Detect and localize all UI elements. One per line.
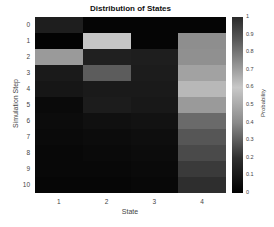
y-tick-label: 2 <box>20 53 30 60</box>
heatmap-cell <box>35 81 83 97</box>
x-axis-label: State <box>110 208 150 215</box>
heatmap-cell <box>35 177 83 193</box>
heatmap-cell <box>35 129 83 145</box>
y-tick-label: 5 <box>20 101 30 108</box>
y-tick-label: 7 <box>20 133 30 140</box>
heatmap-cell <box>83 129 131 145</box>
heatmap-cell <box>131 33 179 49</box>
y-tick-label: 3 <box>20 69 30 76</box>
heatmap-cell <box>178 65 226 81</box>
heatmap-cell <box>178 113 226 129</box>
heatmap-cell <box>35 97 83 113</box>
heatmap-cell <box>35 65 83 81</box>
y-tick-label: 0 <box>20 21 30 28</box>
y-tick-label: 6 <box>20 117 30 124</box>
heatmap-cell <box>83 33 131 49</box>
colorbar-tick-label: 0.9 <box>246 31 254 37</box>
heatmap-cell <box>131 113 179 129</box>
colorbar-tick-label: 0 <box>246 189 249 195</box>
heatmap-cell <box>83 49 131 65</box>
heatmap-cell <box>83 145 131 161</box>
heatmap-cell <box>178 145 226 161</box>
y-tick-label: 9 <box>20 165 30 172</box>
heatmap-cell <box>83 161 131 177</box>
colorbar-tick-label: 0.2 <box>246 154 254 160</box>
heatmap-cell <box>83 65 131 81</box>
heatmap-cell <box>178 33 226 49</box>
heatmap-cell <box>131 81 179 97</box>
heatmap-cell <box>178 97 226 113</box>
colorbar-tick-label: 1 <box>246 13 249 19</box>
heatmap-cell <box>178 129 226 145</box>
y-tick-label: 1 <box>20 37 30 44</box>
heatmap-cell <box>131 49 179 65</box>
heatmap-cell <box>178 81 226 97</box>
heatmap-cell <box>178 161 226 177</box>
x-tick-label: 1 <box>49 198 69 205</box>
heatmap-cell <box>35 33 83 49</box>
heatmap-cell <box>131 97 179 113</box>
colorbar-tick-label: 0.6 <box>246 83 254 89</box>
colorbar-tick-label: 0.7 <box>246 66 254 72</box>
y-tick-label: 10 <box>20 181 30 188</box>
colorbar-tick-label: 0.4 <box>246 119 254 125</box>
heatmap-cell <box>131 65 179 81</box>
heatmap-cell <box>83 97 131 113</box>
heatmap-cell <box>35 49 83 65</box>
heatmap-cell <box>131 177 179 193</box>
y-tick-label: 8 <box>20 149 30 156</box>
x-tick-label: 4 <box>192 198 212 205</box>
heatmap-cell <box>83 177 131 193</box>
heatmap-cell <box>131 129 179 145</box>
heatmap-cell <box>35 17 83 33</box>
heatmap-cell <box>35 145 83 161</box>
heatmap-cell <box>178 177 226 193</box>
x-tick-label: 2 <box>97 198 117 205</box>
colorbar-tick-label: 0.5 <box>246 101 254 107</box>
heatmap-cell <box>178 49 226 65</box>
colorbar-tick-label: 0.3 <box>246 136 254 142</box>
colorbar-label: Probability <box>260 78 266 128</box>
heatmap-cell <box>131 17 179 33</box>
heatmap-cell <box>131 145 179 161</box>
y-axis-label: Simulation Step <box>12 69 19 139</box>
colorbar-tick-label: 0.8 <box>246 48 254 54</box>
x-tick-label: 3 <box>144 198 164 205</box>
heatmap-cell <box>83 81 131 97</box>
heatmap-cell <box>35 113 83 129</box>
y-tick-label: 4 <box>20 85 30 92</box>
heatmap-cell <box>83 17 131 33</box>
heatmap-plot-area <box>35 17 226 193</box>
heatmap-cell <box>131 161 179 177</box>
heatmap-cell <box>35 161 83 177</box>
heatmap-cell <box>83 113 131 129</box>
heatmap-cell <box>178 17 226 33</box>
colorbar-tick-label: 0.1 <box>246 171 254 177</box>
chart-title: Distribution of States <box>35 4 226 13</box>
colorbar <box>232 17 243 193</box>
